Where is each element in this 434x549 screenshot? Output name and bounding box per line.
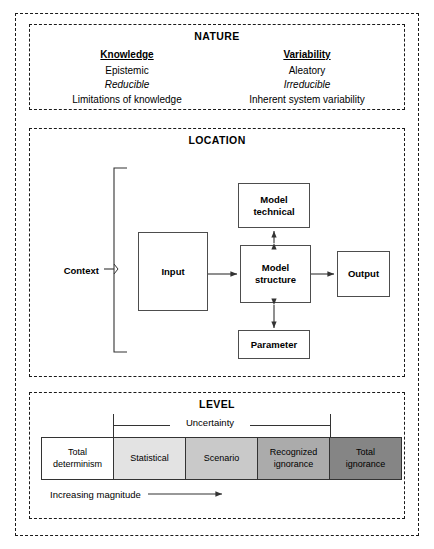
node-model-technical-line1: Model: [260, 194, 287, 205]
nature-column-variability: Variability Aleatory Irreducible Inheren…: [216, 48, 398, 107]
node-input-label: Input: [161, 266, 184, 278]
level-segment-statistical: Statistical: [114, 438, 186, 479]
level-segment-recognized-ignorance-label: Recognized ignorance: [270, 447, 318, 470]
nature-variability-line-2: Irreducible: [216, 78, 398, 93]
increasing-magnitude-label: Increasing magnitude: [50, 489, 141, 500]
level-segment-total-determinism: Total determinism: [42, 438, 114, 479]
nature-knowledge-line-3: Limitations of knowledge: [38, 93, 216, 108]
level-segment-statistical-label: Statistical: [130, 453, 169, 465]
level-scale-bar: Total determinism Statistical Scenario R…: [41, 437, 402, 480]
nature-heading-variability: Variability: [216, 48, 398, 63]
node-model-technical-line2: technical: [253, 206, 294, 217]
uncertainty-label: Uncertainty: [170, 417, 250, 428]
section-title-nature: NATURE: [0, 30, 434, 42]
level-seg3-line1: Recognized: [270, 447, 318, 457]
level-seg0-line1: Total: [68, 447, 87, 457]
level-segment-scenario: Scenario: [186, 438, 258, 479]
nature-column-knowledge: Knowledge Epistemic Reducible Limitation…: [38, 48, 216, 107]
level-segment-scenario-label: Scenario: [204, 453, 240, 465]
level-seg4-line2: ignorance: [346, 459, 386, 469]
node-model-structure: Model structure: [240, 245, 311, 303]
nature-variability-line-3: Inherent system variability: [216, 93, 398, 108]
node-model-technical-label: Model technical: [253, 194, 294, 218]
node-output-label: Output: [348, 268, 379, 280]
level-segment-recognized-ignorance: Recognized ignorance: [258, 438, 330, 479]
uncertainty-matrix-figure: NATURE Knowledge Epistemic Reducible Lim…: [0, 0, 434, 549]
node-input: Input: [138, 232, 208, 311]
context-label: Context: [41, 265, 99, 276]
node-model-structure-line1: Model: [262, 262, 289, 273]
level-segment-total-determinism-label: Total determinism: [53, 447, 102, 470]
level-segment-total-ignorance: Total ignorance: [330, 438, 401, 479]
node-model-structure-label: Model structure: [255, 262, 296, 286]
level-segment-total-ignorance-label: Total ignorance: [346, 447, 386, 470]
node-parameter-label: Parameter: [251, 339, 297, 351]
node-parameter: Parameter: [238, 330, 310, 359]
nature-heading-knowledge: Knowledge: [38, 48, 216, 63]
nature-variability-line-1: Aleatory: [216, 64, 398, 79]
nature-knowledge-line-2: Reducible: [38, 78, 216, 93]
level-seg0-line2: determinism: [53, 459, 102, 469]
level-seg4-line1: Total: [356, 447, 375, 457]
node-model-technical: Model technical: [238, 183, 310, 228]
node-output: Output: [337, 251, 390, 297]
section-title-location: LOCATION: [0, 134, 434, 146]
section-title-level: LEVEL: [0, 398, 434, 410]
level-seg3-line2: ignorance: [274, 459, 314, 469]
node-model-structure-line2: structure: [255, 274, 296, 285]
nature-knowledge-line-1: Epistemic: [38, 64, 216, 79]
